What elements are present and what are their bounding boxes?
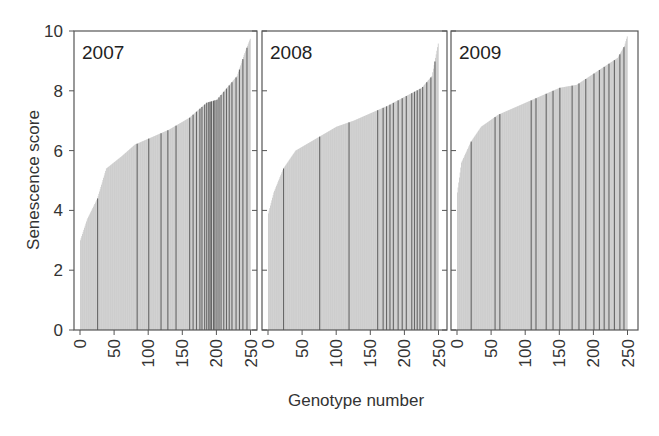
highlighted-bar xyxy=(226,89,227,330)
x-tick-label: 50 xyxy=(293,339,312,358)
x-tick-label: 150 xyxy=(550,339,569,367)
panel-label: 2008 xyxy=(270,42,312,63)
x-tick-label: 100 xyxy=(516,339,535,367)
highlighted-bar xyxy=(614,60,615,330)
highlighted-bar xyxy=(619,54,620,330)
x-tick-label: 50 xyxy=(105,339,124,358)
bar xyxy=(438,44,439,330)
x-tick-label: 200 xyxy=(207,339,226,367)
y-tick-label: 4 xyxy=(54,201,63,220)
highlighted-bar xyxy=(199,109,200,330)
highlighted-bar xyxy=(137,144,138,330)
highlighted-bar xyxy=(167,130,168,330)
highlighted-bar xyxy=(213,101,214,330)
highlighted-bar xyxy=(552,91,553,330)
highlighted-bar xyxy=(175,126,176,330)
x-axis-title: Genotype number xyxy=(288,391,424,410)
highlighted-bar xyxy=(411,93,412,330)
highlighted-bar xyxy=(242,59,243,330)
highlighted-bar xyxy=(204,105,205,330)
y-axis-title: Senescence score xyxy=(24,110,43,250)
x-tick-label: 0 xyxy=(448,339,467,348)
y-tick-label: 2 xyxy=(54,261,63,280)
highlighted-bar xyxy=(231,82,232,330)
y-tick-label: 0 xyxy=(54,321,63,340)
highlighted-bar xyxy=(160,133,161,330)
highlighted-bar xyxy=(97,198,98,330)
highlighted-bar xyxy=(546,94,547,330)
panel-label: 2007 xyxy=(82,42,124,63)
highlighted-bar xyxy=(319,137,320,330)
x-tick-label: 250 xyxy=(430,339,449,367)
x-tick-label: 100 xyxy=(139,339,158,367)
x-tick-label: 250 xyxy=(619,339,638,367)
highlighted-bar xyxy=(559,88,560,330)
highlighted-bar xyxy=(593,74,594,330)
highlighted-bar xyxy=(210,102,211,330)
highlighted-bar xyxy=(406,96,407,330)
highlighted-bar xyxy=(223,92,224,330)
highlighted-bar xyxy=(201,107,202,330)
highlighted-bar xyxy=(348,122,349,330)
highlighted-bar xyxy=(239,70,240,330)
highlighted-bar xyxy=(377,110,378,330)
highlighted-bar xyxy=(419,89,420,330)
highlighted-bar xyxy=(246,48,247,330)
highlighted-bar xyxy=(206,103,207,330)
highlighted-bar xyxy=(608,64,609,330)
highlighted-bar xyxy=(417,90,418,330)
bars xyxy=(457,36,628,330)
highlighted-bar xyxy=(604,67,605,330)
y-tick-label: 8 xyxy=(54,82,63,101)
highlighted-bar xyxy=(585,79,586,330)
panel-2007: 2007050100150200250 xyxy=(71,31,261,367)
highlighted-bar xyxy=(220,95,221,330)
highlighted-bar xyxy=(389,105,390,330)
senescence-chart: 2007050100150200250200805010015020025020… xyxy=(0,0,659,436)
x-tick-label: 250 xyxy=(242,339,261,367)
highlighted-bar xyxy=(393,103,394,330)
highlighted-bar xyxy=(402,98,403,330)
bar xyxy=(627,36,628,330)
bar xyxy=(250,39,251,330)
x-tick-label: 150 xyxy=(173,339,192,367)
highlighted-bar xyxy=(208,102,209,330)
panel-label: 2009 xyxy=(459,42,501,63)
highlighted-bar xyxy=(434,62,435,331)
x-tick-label: 200 xyxy=(584,339,603,367)
chart-panels: 2007050100150200250200805010015020025020… xyxy=(71,31,638,367)
highlighted-bar xyxy=(214,100,215,330)
highlighted-bar xyxy=(193,115,194,330)
panel-2009: 2009050100150200250 xyxy=(448,31,638,367)
highlighted-bar xyxy=(216,100,217,330)
highlighted-bar xyxy=(148,139,149,330)
highlighted-bar xyxy=(236,77,237,330)
highlighted-bar xyxy=(623,47,624,330)
highlighted-bar xyxy=(430,77,431,330)
highlighted-bar xyxy=(599,70,600,330)
bars xyxy=(268,44,439,330)
highlighted-bar xyxy=(426,82,427,330)
highlighted-bar xyxy=(218,97,219,330)
highlighted-bar xyxy=(535,98,536,330)
highlighted-bar xyxy=(572,86,573,330)
x-tick-label: 150 xyxy=(361,339,380,367)
highlighted-bar xyxy=(229,85,230,330)
highlighted-bar xyxy=(383,108,384,330)
panel-2008: 2008050100150200250 xyxy=(259,31,449,367)
highlighted-bar xyxy=(283,169,284,330)
highlighted-bar xyxy=(422,87,423,330)
highlighted-bar xyxy=(578,83,579,330)
x-tick-label: 50 xyxy=(482,339,501,358)
highlighted-bar xyxy=(211,101,212,330)
highlighted-bar xyxy=(189,118,190,330)
y-axis: 0246810 xyxy=(44,22,74,340)
x-tick-label: 100 xyxy=(327,339,346,367)
x-tick-label: 0 xyxy=(71,339,90,348)
y-tick-label: 6 xyxy=(54,142,63,161)
highlighted-bar xyxy=(531,100,532,330)
highlighted-bar xyxy=(414,92,415,330)
highlighted-bar xyxy=(196,112,197,330)
y-tick-label: 10 xyxy=(44,22,63,41)
bars xyxy=(80,39,251,330)
